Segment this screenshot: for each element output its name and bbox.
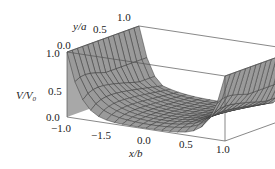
z-axis-label-main: V/V — [16, 89, 33, 101]
x-axis-label: x/b — [129, 148, 142, 159]
z-tick-label: 1.0 — [46, 48, 60, 59]
x-tick-label: 0.0 — [137, 135, 151, 146]
z-axis-label-subscript: 0 — [33, 95, 37, 103]
x-tick-label: −1.5 — [91, 130, 111, 141]
y-tick-label: 0.5 — [93, 24, 107, 35]
y-axis-label: y/a — [73, 21, 86, 32]
x-tick-label: 1.0 — [216, 144, 230, 155]
z-tick-label: 0.5 — [48, 86, 62, 97]
x-tick-label: −1.0 — [51, 123, 71, 134]
z-axis-label: V/V0 — [16, 90, 36, 103]
y-tick-label: 1.0 — [117, 12, 131, 23]
x-tick-label: 0.5 — [179, 139, 193, 150]
